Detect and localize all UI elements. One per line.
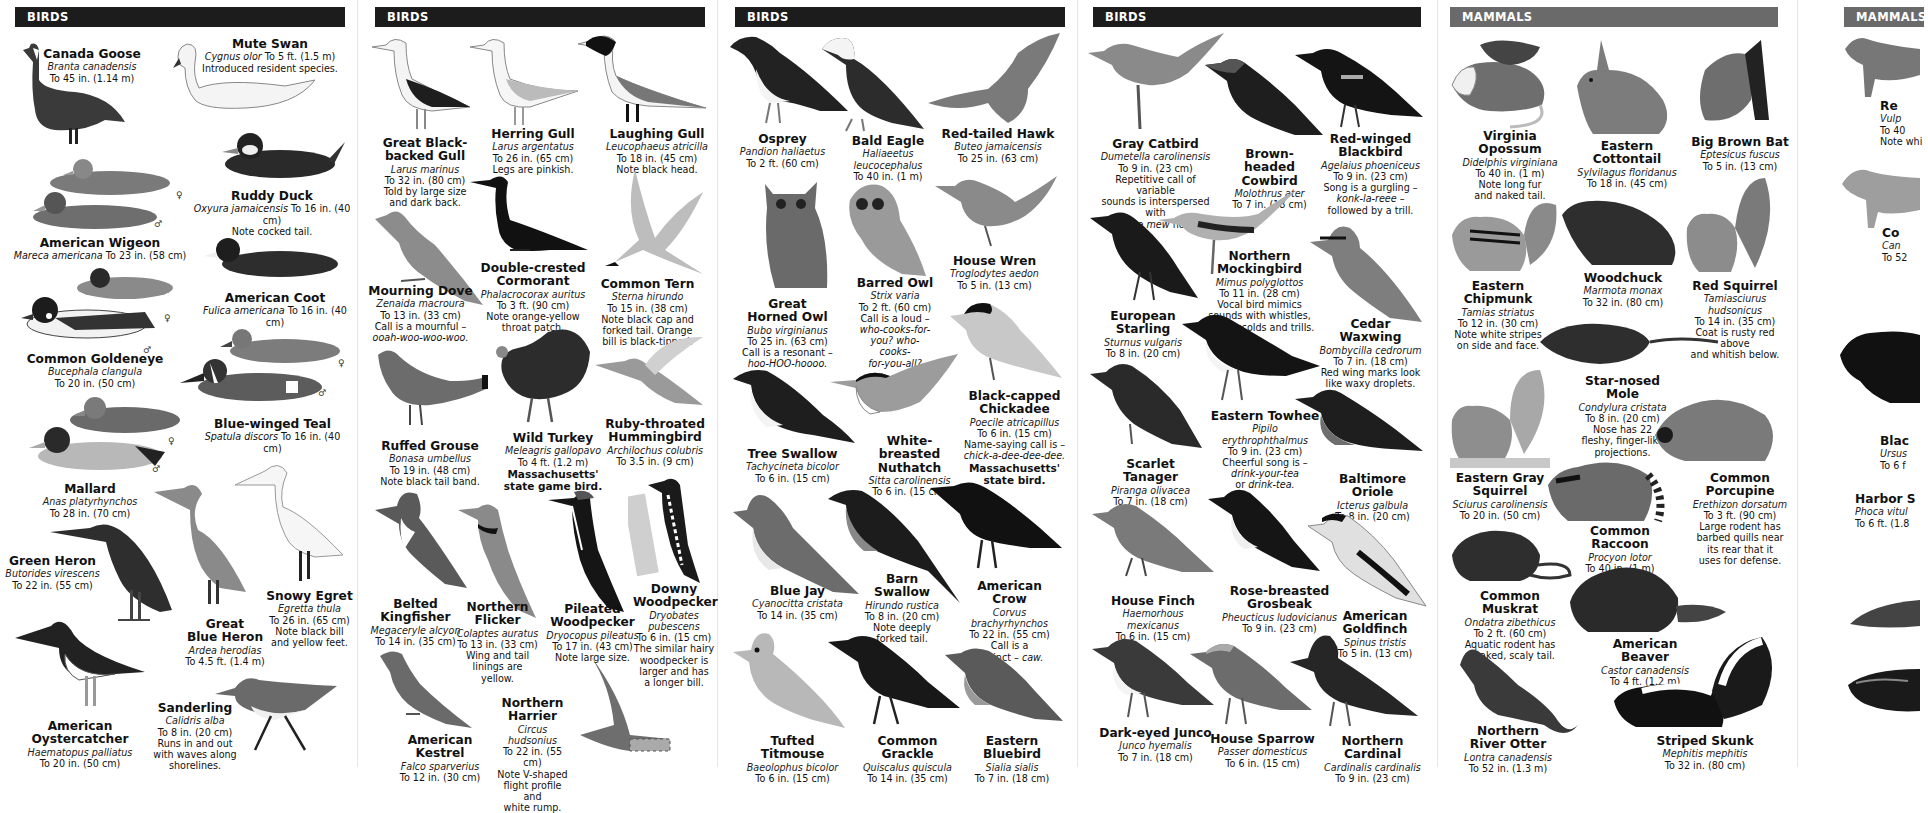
whale-illustration [1848,665,1920,715]
species-black-capped-chickadee: Black-cappedChickadeePoecile atricapillu… [962,390,1067,486]
scientific-name-line2: leucocephalus [848,160,928,171]
size: To 7 in. (18 cm) [1318,356,1423,367]
size: To 25 in. (63 cm) [735,336,840,347]
species-eastern-gray-squirrel: Eastern GraySquirrelSciurus carolinensis… [1450,472,1550,521]
eastern-chipmunk-illustration [1450,195,1560,275]
scientific-name: Sylvilagus floridanus [1572,167,1682,178]
species-name: Re [1880,100,1928,113]
species-bald-eagle: Bald EagleHaliaeetusleucocephalusTo 40 i… [848,135,928,182]
species-cedar-waxwing: CedarWaxwingBombycilla cedrorumTo 7 in. … [1318,318,1423,390]
scientific-name: Bonasa umbellus [375,453,485,464]
rose-breasted-grosbeak-illustration [1208,485,1323,585]
species-name: Pileated [540,603,645,616]
red-fox-illustration [1845,35,1920,100]
species-name-line2: Woodpecker [540,616,645,629]
scientific-name: Poecile atricapillus [962,417,1067,428]
cedar-waxwing-illustration [1310,222,1425,327]
species-name-line2: Squirrel [1450,485,1550,498]
size: To 8 in. (20 cm) [862,611,942,622]
species-mourning-dove: Mourning DoveZenaida macrouraTo 13 in. (… [368,285,473,343]
species-northern-harrier: NorthernHarrierCircus hudsoniusTo 22 in.… [495,697,570,813]
size: To 12 in. (30 cm) [1448,318,1548,329]
call: chick-a-dee-dee-dee. [962,450,1067,461]
female-symbol: ♀ [176,190,183,200]
common-porcupine-illustration [1655,385,1780,470]
size: To 18 in. (45 cm) [597,153,717,164]
species-name-line2: Hummingbird [605,431,705,444]
scientific-name: Ursus [1880,448,1928,459]
species-mute-swan: Mute SwanCygnus olor To 5 ft. (1.5 m)Int… [195,38,345,74]
star-nosed-mole-illustration [1540,322,1720,367]
species-name: Common Muskrat [1455,590,1565,617]
species-mallard: MallardAnas platyrhynchosTo 28 in. (70 c… [30,483,150,519]
panel-divider [357,0,358,767]
common-goldeneye-illustration [15,268,180,348]
size: To 17 in. (43 cm) [540,641,645,652]
american-kestrel-illustration [380,648,475,733]
species-great-blue-heron: GreatBlue HeronArdea herodiasTo 4.5 ft. … [175,618,275,667]
species-ruffed-grouse: Ruffed GrouseBonasa umbellusTo 19 in. (4… [375,440,485,487]
species-name: Snowy Egret [262,590,357,603]
scientific-name: Larus argentatus [478,141,588,152]
note: Note whi [1880,136,1928,147]
species-osprey: OspreyPandion haliaetusTo 2 ft. (60 cm) [735,133,830,169]
species-name-line2: Nuthatch [862,462,957,475]
species-name: Ruby-throated [605,418,705,431]
species-green-heron: Green HeronButorides virescensTo 22 in. … [5,555,100,591]
note: Call is a loud – [855,313,935,324]
species-name: Common Grackle [855,735,960,762]
species-name: Belted [368,598,463,611]
american-oystercatcher-illustration [15,608,150,713]
note: Call is a resonant – [735,347,840,358]
note: with waves along [150,749,240,760]
size: To 9 in. (23 cm) [1098,163,1213,174]
ruby-throated-hummingbird-illustration [595,335,705,415]
scientific-name: Mareca americana [14,250,103,261]
section-header-birds: BIRDS [15,7,345,27]
northern-harrier-illustration [570,655,680,765]
ruddy-duck-illustration [210,128,345,183]
barred-owl-illustration [842,180,927,280]
species-american-oystercatcher: AmericanOystercatcherHaematopus palliatu… [20,720,140,769]
species-name-line2: Swallow [862,586,942,599]
red-tailed-hawk-illustration [928,33,1063,123]
scientific-name: Phoca vitul [1855,506,1928,517]
size: Oxyura jamaicensis To 16 in. (40 cm) [192,203,352,225]
size: To 2 ft. (60 cm) [855,302,935,313]
note: Told by large size [375,186,475,197]
species-name: American Wigeon [5,237,195,250]
double-crested-cormorant-illustration [470,170,590,260]
species-name: Ruddy Duck [192,190,352,203]
species-name: House Finch [1098,595,1208,608]
scientific-name: Sciurus carolinensis [1450,499,1550,510]
downy-woodpecker-illustration [628,475,703,585]
species-name: Common Goldeneye [20,353,170,366]
species-eastern-bluebird: Eastern BluebirdSialia sialisTo 7 in. (1… [962,735,1062,784]
bald-eagle-illustration [822,35,927,135]
species-name-line2: River Otter [1458,738,1558,751]
species-name: Scarlet Tanager [1098,458,1203,485]
scientific-name: Circus hudsonius [495,724,570,746]
species-name-line2: Waxwing [1318,331,1423,344]
size: To 14 in. (35 cm) [855,773,960,784]
scientific-name: Egretta thula [262,603,357,614]
size-value: To 5 ft. (1.5 m) [265,51,336,62]
scientific-name: Sterna hirundo [595,291,700,302]
size: To 3.5 in. (9 cm) [605,456,705,467]
size: To 18 in. (45 cm) [1572,178,1682,189]
species-red-winged-blackbird: Red-wingedBlackbirdAgelaius phoeniceusTo… [1318,133,1423,216]
species-name: Common [1690,472,1790,485]
state-note: Massachusetts' [962,462,1067,474]
species-name: Blac [1880,435,1928,448]
female-symbol: ♀ [338,358,345,368]
species-name: White-breasted [862,435,957,462]
size: To 45 in. (1.14 m) [42,73,142,84]
american-coot-illustration [200,228,340,283]
common-muskrat-illustration [1450,525,1575,585]
species-common-porcupine: CommonPorcupineErethizon dorsatumTo 3 ft… [1690,472,1790,566]
species-name: Red-tailed Hawk [938,128,1058,141]
scientific-name: Eptesicus fuscus [1690,149,1790,160]
size-value: To 23 in. (58 cm) [106,250,187,261]
scientific-name-line2: pubescens [633,621,715,632]
american-beaver-illustration [1568,562,1728,637]
